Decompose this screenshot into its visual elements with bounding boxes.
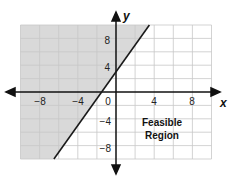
x-tick-label: 4 — [151, 96, 157, 107]
origin-label: 0 — [105, 96, 111, 107]
y-tick-label: 8 — [104, 35, 110, 46]
y-axis-label: y — [122, 9, 131, 23]
x-tick-label: −8 — [34, 96, 46, 107]
x-tick-label: 8 — [189, 96, 195, 107]
x-axis-right-arrow-icon — [211, 88, 220, 96]
x-axis-label: x — [219, 96, 228, 110]
y-tick-label: −4 — [100, 116, 112, 127]
x-tick-label: −4 — [72, 96, 84, 107]
coordinate-plane: y x −8 −4 0 4 8 8 4 −4 −8 Feasible Regio… — [0, 0, 229, 178]
y-tick-label: −8 — [100, 143, 112, 154]
y-axis-down-arrow-icon — [112, 165, 120, 174]
feasible-region-label-line2: Region — [145, 130, 179, 141]
y-axis-up-arrow-icon — [112, 12, 120, 21]
x-axis-left-arrow-icon — [6, 88, 15, 96]
y-tick-label: 4 — [104, 62, 110, 73]
feasible-region-label-line1: Feasible — [142, 117, 182, 128]
